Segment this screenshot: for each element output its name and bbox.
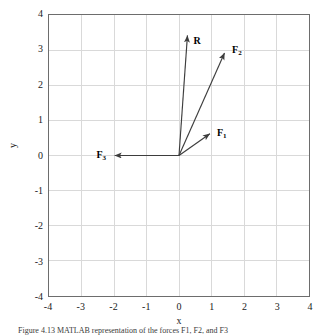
x-tick-label: 0: [177, 302, 182, 312]
x-tick-label: -3: [77, 302, 85, 312]
x-tick-label: -2: [109, 302, 117, 312]
x-tick-label: 4: [308, 302, 313, 312]
y-tick-label: 0: [22, 151, 43, 161]
x-tick-label: 3: [275, 302, 280, 312]
y-tick-label: -3: [22, 257, 43, 267]
y-tick-label: 3: [22, 44, 43, 54]
y-tick-label: 2: [22, 80, 43, 90]
y-tick-label: -4: [22, 292, 43, 302]
force-vector-figure: -4-3-2-101234 43210-1-2-3-4 F1F2RF3 x y …: [0, 0, 329, 336]
y-tick-label: -2: [22, 221, 43, 231]
x-tick-label: -4: [44, 302, 52, 312]
vector-label-F1: F1: [217, 128, 227, 138]
vector-label-R: R: [193, 36, 200, 46]
plot-area: [48, 14, 310, 297]
x-axis-title: x: [48, 316, 310, 326]
y-axis-title: y: [8, 143, 18, 148]
vector-layer: [49, 15, 309, 296]
vector-label-F2: F2: [232, 45, 242, 55]
y-tick-label: -1: [22, 186, 43, 196]
y-tick-label: 4: [22, 9, 43, 19]
x-tick-label: -1: [142, 302, 150, 312]
figure-caption: Figure 4.13 MATLAB representation of the…: [18, 327, 318, 335]
vector-label-F3: F3: [96, 150, 106, 160]
vector-R: [179, 35, 187, 155]
x-tick-label: 2: [242, 302, 247, 312]
x-tick-label: 1: [209, 302, 214, 312]
y-tick-label: 1: [22, 115, 43, 125]
